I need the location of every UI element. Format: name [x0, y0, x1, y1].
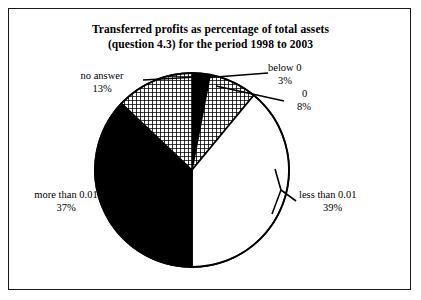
- slice-label-no-answer: no answer 13%: [60, 70, 144, 95]
- pie-chart-svg: [0, 0, 421, 300]
- pie-chart-canvas: [0, 0, 421, 300]
- slice-label-no-answer-value: 13%: [60, 83, 144, 96]
- slice-label-more-than-0-01-name: more than 0.01: [18, 189, 114, 202]
- slice-label-zero-name: 0: [286, 88, 332, 101]
- slice-label-no-answer-name: no answer: [60, 70, 144, 83]
- pie-chart-figure: Transferred profits as percentage of tot…: [0, 0, 421, 300]
- slice-label-less-than-0-01: less than 0.01 39%: [299, 189, 389, 214]
- slice-label-zero-value: 8%: [286, 101, 332, 114]
- slice-label-zero: 0 8%: [286, 88, 332, 113]
- slice-label-more-than-0-01-value: 37%: [18, 202, 114, 215]
- slice-label-below-0-value: 3%: [268, 75, 338, 88]
- slice-label-less-than-0-01-name: less than 0.01: [299, 189, 389, 202]
- slice-label-below-0: below 0 3%: [268, 62, 338, 87]
- slice-label-below-0-name: below 0: [268, 62, 338, 75]
- slice-label-less-than-0-01-value: 39%: [299, 202, 389, 215]
- slice-label-more-than-0-01: more than 0.01 37%: [18, 189, 114, 214]
